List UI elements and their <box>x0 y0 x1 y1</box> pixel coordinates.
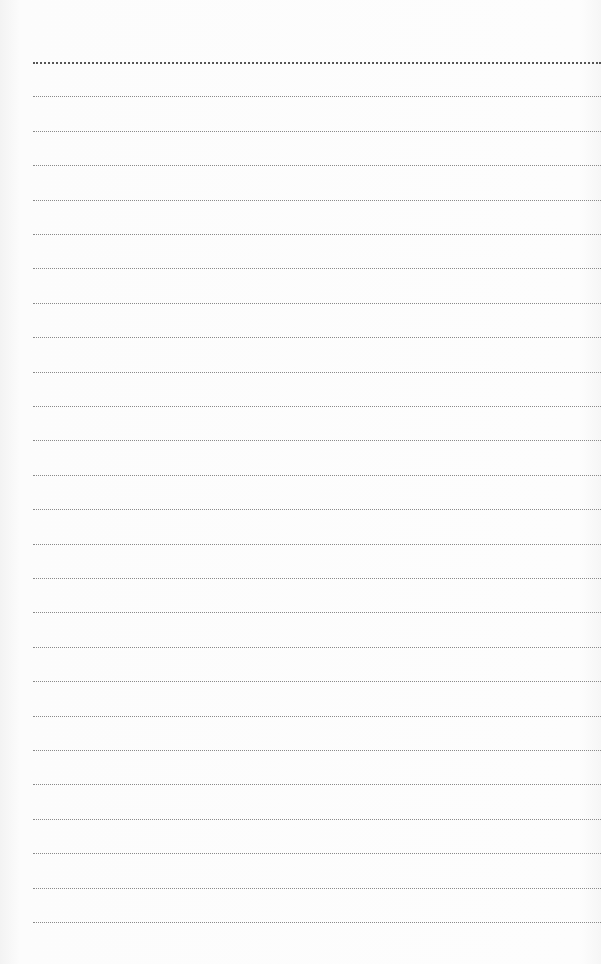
ruled-line <box>33 888 601 889</box>
ruled-line <box>33 819 601 820</box>
ruled-line <box>33 716 601 717</box>
ruled-line <box>33 647 601 648</box>
ruled-line <box>33 612 601 613</box>
ruled-line <box>33 165 601 166</box>
ruled-line <box>33 440 601 441</box>
ruled-line <box>33 784 601 785</box>
ruled-line <box>33 372 601 373</box>
ruled-line <box>33 922 601 923</box>
ruled-line <box>33 234 601 235</box>
ruled-line <box>33 62 601 64</box>
ruled-line <box>33 268 601 269</box>
ruled-line <box>33 475 601 476</box>
ruled-line <box>33 681 601 682</box>
ruled-line <box>33 578 601 579</box>
ruled-line <box>33 337 601 338</box>
ruled-line <box>33 406 601 407</box>
ruled-line <box>33 131 601 132</box>
ruled-line <box>33 303 601 304</box>
ruled-line <box>33 853 601 854</box>
ruled-line <box>33 200 601 201</box>
ruled-line <box>33 509 601 510</box>
ruled-line <box>33 750 601 751</box>
ruled-line <box>33 544 601 545</box>
lined-paper-page <box>0 0 601 964</box>
ruled-line <box>33 96 601 97</box>
